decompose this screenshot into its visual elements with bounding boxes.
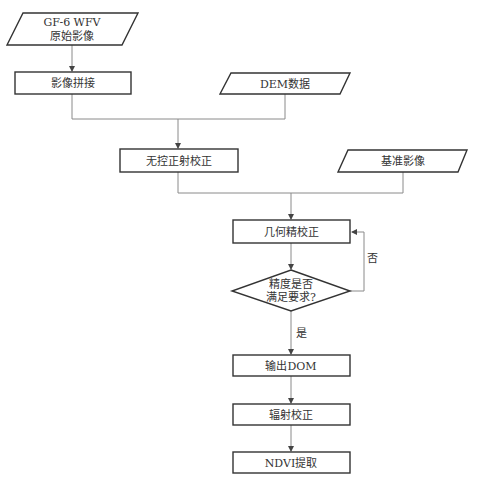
dem-label: DEM数据: [260, 77, 310, 91]
decision-line1: 精度是否: [269, 277, 313, 291]
geo-fine-label: 几何精校正: [264, 225, 319, 239]
mosaic-label: 影像拼接: [51, 76, 95, 90]
ndvi-label: NDVI提取: [265, 457, 318, 470]
flowchart: GF-6 WFV 原始影像 影像拼接 DEM数据 无控正射校正 基准影像 几何精…: [0, 0, 477, 491]
node-geo-fine: 几何精校正: [233, 220, 350, 243]
node-ndvi: NDVI提取: [233, 452, 350, 473]
output-dom-label: 输出DOM: [265, 359, 316, 373]
reference-label: 基准影像: [381, 155, 425, 168]
arrow-no-loop: [350, 232, 364, 291]
flowchart-canvas: GF-6 WFV 原始影像 影像拼接 DEM数据 无控正射校正 基准影像 几何精…: [0, 0, 477, 491]
node-raw-image: GF-6 WFV 原始影像: [7, 13, 138, 45]
node-ortho: 无控正射校正: [120, 149, 238, 172]
node-dem: DEM数据: [220, 73, 350, 94]
ortho-label: 无控正射校正: [146, 154, 212, 168]
decision-line2: 满足要求?: [266, 291, 316, 304]
node-output-dom: 输出DOM: [233, 355, 350, 376]
raw-image-line2: 原始影像: [50, 29, 94, 43]
node-decision: 精度是否 满足要求?: [232, 270, 350, 311]
connectors: [72, 45, 403, 451]
merge-ortho-reference: [178, 172, 403, 193]
node-radiometric: 辐射校正: [233, 404, 350, 425]
node-mosaic: 影像拼接: [15, 72, 131, 94]
merge-mosaic-dem: [72, 94, 285, 119]
radiometric-label: 辐射校正: [269, 408, 313, 422]
edge-label-no: 否: [367, 252, 378, 265]
edge-label-yes: 是: [296, 327, 307, 340]
node-reference: 基准影像: [338, 150, 467, 172]
raw-image-line1: GF-6 WFV: [43, 16, 101, 29]
